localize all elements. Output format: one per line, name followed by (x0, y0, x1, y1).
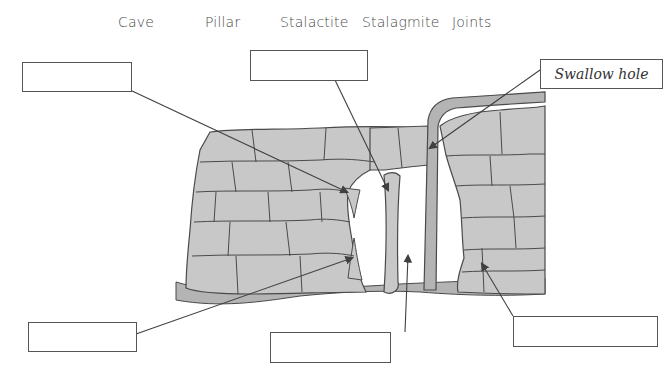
label-box-swallow-hole[interactable]: Swallow hole (540, 59, 663, 89)
label-box-cave[interactable] (22, 62, 132, 92)
label-box-joints[interactable] (513, 316, 658, 347)
label-text: Swallow hole (541, 66, 662, 82)
label-box-stalactite-pillar[interactable] (250, 50, 368, 81)
label-box-stalagmite[interactable] (28, 322, 137, 352)
label-box-cave-bottom[interactable] (270, 332, 391, 363)
